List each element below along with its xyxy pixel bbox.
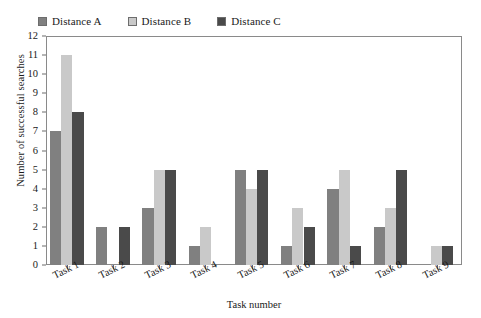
- y-tick-label: 10: [28, 69, 39, 80]
- y-tick-label: 7: [33, 126, 38, 137]
- legend-swatch-icon: [128, 17, 137, 26]
- bar-chart: Distance ADistance BDistance C Number of…: [0, 0, 481, 318]
- legend-item[interactable]: Distance C: [217, 14, 281, 28]
- y-tick-label: 6: [33, 145, 38, 156]
- y-tick-label: 4: [33, 183, 38, 194]
- y-tick-label: 12: [28, 31, 39, 42]
- y-tick-label: 1: [33, 241, 38, 252]
- legend-item[interactable]: Distance B: [128, 14, 192, 28]
- y-tick-label: 2: [33, 222, 38, 233]
- y-tick-label: 9: [33, 88, 38, 99]
- chart-legend: Distance ADistance BDistance C: [38, 14, 281, 28]
- y-tick-label: 5: [33, 164, 38, 175]
- y-tick-label: 0: [33, 260, 38, 271]
- plot-area: [46, 36, 462, 265]
- legend-item[interactable]: Distance A: [38, 14, 102, 28]
- y-axis-ticks: 0123456789101112: [0, 36, 46, 265]
- y-tick-label: 8: [33, 107, 38, 118]
- legend-swatch-icon: [217, 17, 226, 26]
- legend-label: Distance C: [231, 16, 281, 27]
- legend-label: Distance B: [142, 16, 192, 27]
- legend-swatch-icon: [38, 17, 47, 26]
- legend-label: Distance A: [52, 16, 102, 27]
- y-tick-label: 3: [33, 203, 38, 214]
- x-axis-title: Task number: [46, 299, 462, 310]
- y-tick-label: 11: [28, 50, 38, 61]
